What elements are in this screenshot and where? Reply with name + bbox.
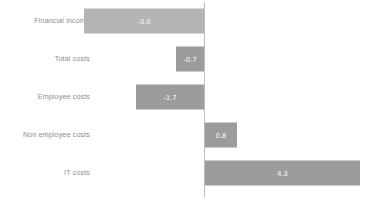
bar-value-label: -3.0 bbox=[137, 17, 150, 26]
bar-employee-costs: -1.7 bbox=[136, 85, 204, 110]
category-label: Employee costs bbox=[38, 93, 90, 101]
bar-value-label: -1.7 bbox=[163, 93, 176, 102]
bar-it-costs: 4.3 bbox=[205, 161, 360, 186]
bar-row: Total costs -0.7 bbox=[0, 40, 366, 78]
category-label: IT costs bbox=[64, 169, 90, 177]
bar-financial-income: -3.0 bbox=[84, 9, 204, 34]
bar-total-costs: -0.7 bbox=[176, 47, 204, 72]
bar-value-label: 0.8 bbox=[216, 131, 227, 140]
bar-row: Non employee costs 0.8 bbox=[0, 116, 366, 154]
category-label: Non employee costs bbox=[23, 131, 90, 139]
bar-value-label: -0.7 bbox=[183, 55, 196, 64]
bar-value-label: 4.3 bbox=[277, 169, 288, 178]
bar-row: IT costs 4.3 bbox=[0, 154, 366, 192]
bar-non-employee-costs: 0.8 bbox=[205, 123, 237, 148]
category-label: Financial income bbox=[34, 17, 90, 25]
bar-chart: Financial income -3.0 Total costs -0.7 E… bbox=[0, 0, 366, 199]
bar-row: Employee costs -1.7 bbox=[0, 78, 366, 116]
category-label: Total costs bbox=[55, 55, 90, 63]
zero-axis-line bbox=[204, 2, 205, 197]
bar-row: Financial income -3.0 bbox=[0, 2, 366, 40]
